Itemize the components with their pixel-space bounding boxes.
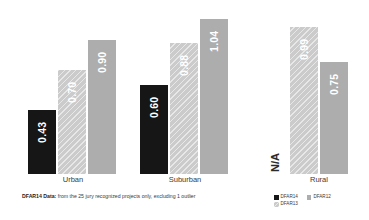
chart-legend: DFAR14 DFAR12 DFAR13 [274,195,366,209]
bar-urban-dfar12[interactable]: 0.90 [88,40,116,174]
legend-label-dfar14: DFAR14 [281,195,298,200]
bar-urban-dfar13[interactable]: 0.70 [58,70,86,174]
bar-suburban-dfar12[interactable]: 1.04 [200,19,228,174]
legend-row-2: DFAR13 [274,202,366,207]
bar-suburban-dfar14[interactable]: 0.60 [140,85,168,174]
bar-value-urban-dfar14: 0.43 [37,122,48,143]
legend-swatch-icon-dfar14 [274,195,279,200]
bar-group-suburban: 0.60 0.88 1.04 Suburban [140,0,230,174]
footnote: DFAR14 Data: from the 25 jury recognized… [22,194,196,199]
legend-label-dfar12: DFAR12 [313,195,330,200]
rural-dfar14-na-label: N/A [270,153,281,172]
bar-group-suburban-bars: 0.60 0.88 1.04 [140,0,228,174]
legend-item-dfar13[interactable]: DFAR13 [274,202,298,207]
footnote-strong: DFAR14 Data: [22,193,56,199]
bar-group-rural: N/A 0.99 0.75 Rural [270,0,350,174]
footnote-text: from the 25 jury recognized projects onl… [56,193,195,199]
category-label-rural: Rural [290,176,348,184]
bar-value-urban-dfar13: 0.70 [67,82,78,103]
bar-rural-dfar13[interactable]: 0.99 [290,27,318,174]
bar-suburban-dfar13[interactable]: 0.88 [170,43,198,174]
bar-value-suburban-dfar12: 1.04 [209,31,220,52]
bar-group-urban-bars: 0.43 0.70 0.90 [28,0,116,174]
bar-value-rural-dfar12: 0.75 [329,74,340,95]
bar-value-rural-dfar13: 0.99 [299,39,310,60]
legend-row-1: DFAR14 DFAR12 [274,195,366,200]
grouped-bar-chart: 0.43 0.70 0.90 Urban 0.60 0.88 [0,0,369,220]
bar-urban-dfar14[interactable]: 0.43 [28,110,56,174]
bar-value-suburban-dfar14: 0.60 [149,97,160,118]
legend-swatch-icon-dfar12 [307,195,312,200]
legend-item-dfar14[interactable]: DFAR14 [274,195,298,200]
bar-value-urban-dfar12: 0.90 [97,52,108,73]
legend-item-dfar12[interactable]: DFAR12 [307,195,331,200]
category-label-urban: Urban [28,176,118,184]
category-label-suburban: Suburban [140,176,230,184]
legend-swatch-icon-dfar13 [274,202,279,207]
legend-label-dfar13: DFAR13 [281,202,298,207]
bar-group-urban: 0.43 0.70 0.90 Urban [28,0,118,174]
bar-group-rural-bars: 0.99 0.75 [290,0,348,174]
bar-value-suburban-dfar13: 0.88 [179,55,190,76]
plot-area: 0.43 0.70 0.90 Urban 0.60 0.88 [0,0,369,174]
bar-rural-dfar12[interactable]: 0.75 [320,62,348,174]
